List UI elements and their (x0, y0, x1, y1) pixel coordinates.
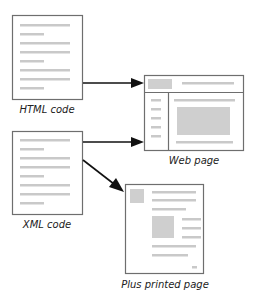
printed-page-number (192, 266, 197, 269)
code-line (20, 51, 70, 54)
printed-text-line (152, 191, 196, 194)
code-line (20, 184, 70, 187)
web-nav-item (151, 117, 161, 120)
arrowhead-icon (131, 78, 144, 88)
web-header-line (182, 82, 234, 85)
web-content-line (176, 141, 233, 144)
web-nav-item (151, 99, 161, 102)
web-logo-block (148, 79, 172, 89)
code-line (20, 157, 70, 160)
code-line (20, 24, 70, 27)
code-line (20, 148, 44, 151)
web-page-mockup (145, 76, 244, 151)
printed-text-line (152, 208, 186, 211)
printed-text-line (182, 218, 201, 221)
code-line (20, 42, 70, 45)
xml-code-label: XML code (22, 219, 71, 230)
printed-page-label: Plus printed page (121, 279, 209, 290)
html-code-document (13, 16, 83, 100)
printed-text-line (152, 254, 188, 257)
web-content-line (174, 99, 235, 102)
code-line (20, 69, 70, 72)
arrow-xml-to-printed (83, 160, 124, 192)
printed-page-mockup (126, 185, 204, 274)
arrow-shaft (83, 160, 114, 184)
diagram-canvas: HTML code XML code Web page (0, 0, 253, 298)
code-line (20, 175, 44, 178)
code-line (20, 78, 70, 81)
code-line (20, 87, 44, 90)
printed-image-block (152, 216, 174, 238)
web-nav-item (151, 108, 161, 111)
xml-code-document (13, 132, 83, 215)
code-line (20, 166, 70, 169)
printed-logo-block (130, 189, 144, 203)
html-code-label: HTML code (19, 104, 74, 115)
web-page-label: Web page (169, 155, 220, 166)
code-line (20, 60, 44, 63)
arrow-html-to-web (83, 78, 144, 88)
arrowhead-icon (131, 137, 144, 147)
printed-text-line (182, 227, 201, 230)
printed-text-line (152, 199, 196, 202)
code-line (20, 193, 70, 196)
code-line (20, 139, 70, 142)
html-document-frame (13, 16, 83, 100)
code-line (20, 33, 44, 36)
arrowhead-icon (109, 178, 124, 192)
printed-text-line (152, 245, 196, 248)
web-image-block (177, 107, 230, 135)
code-line (20, 202, 44, 205)
web-nav-item (151, 126, 161, 129)
printed-text-line (182, 236, 201, 239)
arrow-xml-to-web (83, 137, 144, 147)
web-nav-item (151, 135, 161, 138)
